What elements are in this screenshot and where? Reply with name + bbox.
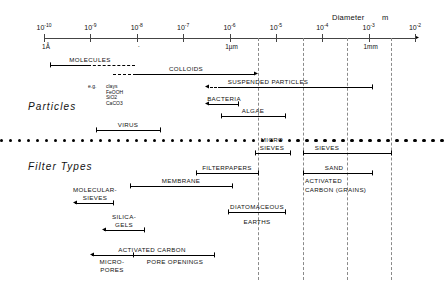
section-title-filter-types: Filter Types	[28, 161, 93, 172]
band-label-diatomaceous-line2: EARTHS	[243, 219, 270, 225]
axis-unit-label: m	[382, 14, 389, 22]
silica-gels-bar	[104, 230, 144, 231]
separator-dot	[90, 139, 93, 142]
axis-tick-10-4	[322, 34, 323, 42]
separator-dot	[288, 139, 291, 142]
colloids-bar-solid	[136, 74, 254, 75]
separator-dot	[72, 139, 75, 142]
axis-tick-10-9	[90, 34, 91, 42]
bacteria-bar	[209, 104, 238, 105]
band-label-silica-gels-line1: SILICA-	[112, 214, 136, 220]
separator-dot	[332, 139, 335, 142]
separator-dot	[81, 139, 84, 142]
activated-carbon-bar	[92, 255, 214, 256]
activated-carbon-divider	[133, 252, 134, 257]
band-label-micro-sieves-line1: MICRO	[261, 137, 283, 143]
separator-dot	[135, 139, 138, 142]
molecular-sieves-right-cap	[113, 200, 114, 205]
sand-right-cap	[372, 170, 373, 175]
example-item-caco3: CaCO3	[106, 101, 123, 107]
separator-dot	[440, 139, 443, 142]
band-label-diatomaceous-line1: DIATOMACEOUS	[230, 204, 284, 210]
band-label-activated-carbon-grains-line2: CARBON (GRAINS)	[305, 187, 366, 193]
suspended-bar-dashed	[210, 87, 221, 88]
axis-tick-label-10-4: 10-4	[316, 22, 328, 31]
band-label-pore-openings: PORE OPENINGS	[147, 259, 203, 265]
sand-bar	[303, 173, 372, 174]
axis-tick-10-5	[276, 34, 277, 42]
separator-dot	[9, 139, 12, 142]
filterpapers-right-cap	[258, 170, 259, 175]
axis-tick-10-7	[183, 34, 184, 42]
particle-size-filter-diagram: Diameter m 10-101Å10-910-8·10-710-61µm10…	[0, 0, 446, 290]
suspended-bar-solid	[221, 87, 372, 88]
band-label-suspended-particles: SUSPENDED PARTICLES	[228, 79, 309, 85]
separator-dot	[126, 139, 129, 142]
separator-dot	[180, 139, 183, 142]
silica-gels-right-cap	[144, 227, 145, 232]
membrane-bar	[130, 186, 232, 187]
separator-dot	[99, 139, 102, 142]
separator-dot	[368, 139, 371, 142]
separator-dot	[323, 139, 326, 142]
axis-tick-label-10-10: 10-10	[36, 22, 51, 31]
separator-dot	[189, 139, 192, 142]
axis-tick-10-10	[44, 34, 45, 42]
separator-dot	[117, 139, 120, 142]
section-title-particles: Particles	[28, 101, 76, 112]
separator-dot	[359, 139, 362, 142]
sieves-right-cap	[391, 150, 392, 155]
bacteria-right-cap	[238, 101, 239, 106]
separator-dot	[395, 139, 398, 142]
band-label-sieves: SIEVES	[315, 145, 339, 151]
guide-1e-3	[347, 38, 348, 280]
activated-carbon-right-cap	[214, 252, 215, 257]
separator-dot	[18, 139, 21, 142]
section-separator-dotted	[0, 137, 446, 144]
axis-sublabel-1m: 1µm	[225, 43, 238, 50]
separator-dot	[198, 139, 201, 142]
guide-1e-4	[303, 38, 304, 280]
separator-dot	[422, 139, 425, 142]
colloids-bar-dashed	[113, 74, 136, 75]
virus-right-cap	[160, 127, 161, 132]
suspended-left-arrow	[205, 84, 209, 88]
axis-tick-label-10-5: 10-5	[270, 22, 282, 31]
separator-dot	[162, 139, 165, 142]
separator-dot	[216, 139, 219, 142]
virus-bar	[96, 130, 160, 131]
separator-dot	[431, 139, 434, 142]
micro-sieves-bar	[255, 153, 290, 154]
algae-right-cap	[285, 113, 286, 118]
separator-dot	[45, 139, 48, 142]
axis-sublabel-1: 1Å	[42, 43, 50, 50]
molecular-sieves-bar	[75, 203, 113, 204]
band-label-virus: VIRUS	[118, 122, 139, 128]
axis-sublabel-: ·	[138, 43, 140, 50]
axis-tick-10-6	[230, 34, 231, 42]
separator-dot	[296, 139, 299, 142]
band-label-membrane: MEMBRANE	[162, 178, 201, 184]
separator-dot	[36, 139, 39, 142]
band-label-algae: ALGAE	[242, 108, 264, 114]
example-materials-note: e.g.	[88, 84, 96, 90]
separator-dot	[108, 139, 111, 142]
sieves-bar	[303, 153, 391, 154]
separator-dot	[314, 139, 317, 142]
micro-sieves-left-cap	[255, 150, 256, 155]
band-label-bacteria: BACTERIA	[207, 96, 241, 102]
guide-1e-5	[258, 38, 259, 280]
separator-dot	[404, 139, 407, 142]
axis-tick-label-10-8: 10-8	[131, 22, 143, 31]
band-label-silica-gels-line2: GELS	[115, 222, 133, 228]
band-label-molecular-sieves-line2: SIEVES	[83, 195, 107, 201]
algae-bar	[221, 116, 285, 117]
separator-dot	[413, 139, 416, 142]
band-label-micro-sieves-line2: SIEVES	[260, 145, 284, 151]
axis-tick-10-3	[369, 34, 370, 42]
separator-dot	[207, 139, 210, 142]
separator-dot	[63, 139, 66, 142]
band-label-activated-carbon: ACTIVATED CARBON	[118, 247, 186, 253]
separator-dot	[341, 139, 344, 142]
separator-dot	[234, 139, 237, 142]
